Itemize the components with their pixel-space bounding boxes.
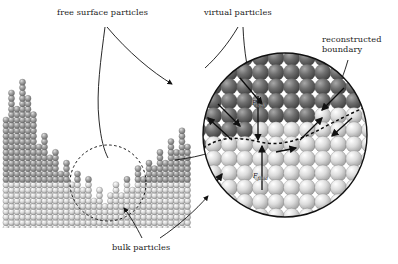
- particle: [168, 214, 174, 220]
- particle: [3, 203, 9, 209]
- particle: [19, 106, 25, 112]
- inset-particle: [205, 208, 221, 224]
- inset-particle: [190, 223, 206, 239]
- particle: [36, 182, 42, 188]
- particle: [85, 187, 91, 193]
- particle: [8, 101, 14, 107]
- particle: [52, 225, 58, 231]
- particle: [25, 149, 31, 155]
- particle: [173, 149, 179, 155]
- particle: [58, 176, 64, 182]
- particle: [118, 198, 124, 204]
- particle: [63, 220, 69, 226]
- inset-particle: [268, 122, 284, 138]
- inset-particle: [299, 194, 315, 210]
- particle: [179, 133, 185, 139]
- particle: [41, 149, 47, 155]
- particle: [47, 214, 53, 220]
- particle: [146, 225, 152, 231]
- inset-particle: [377, 136, 393, 152]
- particle: [162, 176, 168, 182]
- particle: [179, 176, 185, 182]
- inset-particle: [252, 151, 268, 167]
- particle: [30, 187, 36, 193]
- inset-particle: [315, 64, 331, 80]
- particle: [168, 160, 174, 166]
- particle: [74, 220, 80, 226]
- inset-particle: [252, 223, 268, 239]
- particle: [47, 225, 53, 231]
- particle: [118, 193, 124, 199]
- inset-particle: [205, 107, 221, 123]
- particle: [162, 193, 168, 199]
- particle: [14, 106, 20, 112]
- particle: [47, 198, 53, 204]
- particle: [8, 128, 14, 134]
- particle: [85, 220, 91, 226]
- particle: [129, 198, 135, 204]
- particle: [107, 198, 113, 204]
- particle: [96, 198, 102, 204]
- particle: [179, 166, 185, 172]
- particle: [124, 182, 130, 188]
- particle: [146, 166, 152, 172]
- particle: [47, 187, 53, 193]
- particle: [25, 214, 31, 220]
- inset-particle: [268, 107, 284, 123]
- inset-particle: [283, 50, 299, 66]
- leader-free-surface-left: [98, 27, 108, 158]
- particle: [80, 220, 86, 226]
- particle: [168, 220, 174, 226]
- leader-virtual-left: [205, 27, 238, 68]
- particle: [162, 220, 168, 226]
- particle: [80, 198, 86, 204]
- inset-particle: [221, 64, 237, 80]
- particle: [102, 209, 108, 215]
- particle: [19, 95, 25, 101]
- inset-particle: [252, 179, 268, 195]
- particle: [25, 95, 31, 101]
- inset-particle: [268, 79, 284, 95]
- particle: [3, 214, 9, 220]
- particle: [19, 209, 25, 215]
- inset-particle: [377, 165, 393, 181]
- particle: [25, 225, 31, 231]
- particle: [173, 193, 179, 199]
- particle: [135, 220, 141, 226]
- particle: [19, 166, 25, 172]
- particle: [14, 193, 20, 199]
- particle: [135, 171, 141, 177]
- particle: [47, 171, 53, 177]
- inset-particle: [361, 93, 377, 109]
- particle: [19, 149, 25, 155]
- particle: [135, 182, 141, 188]
- particle: [8, 160, 14, 166]
- label-force-fluid: Ffluid: [253, 172, 268, 181]
- particle: [168, 176, 174, 182]
- particle: [80, 203, 86, 209]
- particle: [162, 225, 168, 231]
- particle: [3, 160, 9, 166]
- particle: [80, 193, 86, 199]
- particle: [173, 160, 179, 166]
- particle: [184, 166, 190, 172]
- particle: [107, 214, 113, 220]
- inset-particle: [315, 223, 331, 239]
- particle: [52, 149, 58, 155]
- inset-particle: [190, 165, 206, 181]
- inset-particle: [190, 64, 206, 80]
- particle: [173, 198, 179, 204]
- label-force-wall: Fwall: [252, 99, 266, 108]
- particle: [179, 155, 185, 161]
- particle: [3, 182, 9, 188]
- label-virtual-particles: virtual particles: [204, 8, 272, 18]
- particle: [118, 214, 124, 220]
- inset-particle: [377, 223, 393, 239]
- inset-particle: [330, 79, 346, 95]
- inset-particle: [283, 122, 299, 138]
- inset-particle: [190, 93, 206, 109]
- particle: [74, 193, 80, 199]
- particle: [41, 160, 47, 166]
- particle: [8, 112, 14, 118]
- inset-particle: [361, 223, 377, 239]
